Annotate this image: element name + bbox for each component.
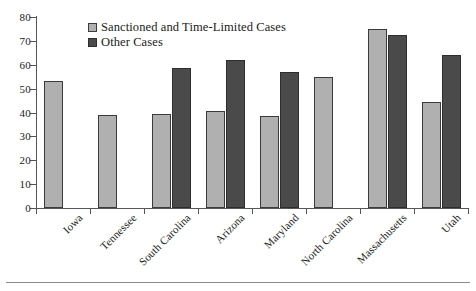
x-axis-label: Massachusetts [355, 212, 409, 266]
y-axis-tick-label: 10 [20, 179, 31, 190]
y-axis-tick-label: 20 [20, 155, 31, 166]
bar-group [36, 17, 90, 208]
x-axis-label: Arizona [213, 212, 246, 245]
bar [206, 111, 225, 208]
legend-swatch-icon [88, 38, 97, 47]
bar [226, 60, 245, 208]
x-axis-label: Tennessee [99, 212, 139, 252]
bar [388, 35, 407, 208]
legend-label: Sanctioned and Time-Limited Cases [101, 20, 286, 35]
y-axis-tick-label: 40 [20, 107, 31, 118]
x-axis-label: North Carolina [299, 212, 355, 268]
legend-item: Other Cases [88, 35, 286, 50]
bar [172, 68, 191, 208]
y-axis-tick-label: 80 [20, 12, 31, 23]
bar [44, 81, 63, 208]
bar [314, 77, 333, 208]
y-axis-tick-label: 60 [20, 59, 31, 70]
bar-group [360, 17, 414, 208]
x-axis-label: South Carolina [137, 212, 193, 268]
bar [422, 102, 441, 208]
x-axis-labels: IowaTennesseeSouth CarolinaArizonaMaryla… [36, 210, 468, 288]
bar [152, 114, 171, 208]
bar [368, 29, 387, 208]
x-axis-label: Utah [440, 212, 463, 235]
bar-group [306, 17, 360, 208]
bar [280, 72, 299, 208]
bottom-divider [6, 282, 470, 283]
legend-label: Other Cases [101, 35, 163, 50]
x-axis-label: Maryland [262, 212, 301, 251]
bar [98, 115, 117, 208]
bar [260, 116, 279, 208]
chart-legend: Sanctioned and Time-Limited CasesOther C… [88, 20, 286, 50]
y-axis-tick-label: 30 [20, 131, 31, 142]
legend-swatch-icon [88, 23, 97, 32]
y-axis-tick-label: 0 [25, 203, 31, 214]
y-axis-tick-label: 50 [20, 83, 31, 94]
legend-item: Sanctioned and Time-Limited Cases [88, 20, 286, 35]
x-axis-label: Iowa [61, 212, 85, 236]
bar-group [414, 17, 468, 208]
bar [442, 55, 461, 208]
y-axis-tick-label: 70 [20, 35, 31, 46]
x-axis-tick [468, 208, 469, 214]
bar-chart: 01020304050607080 IowaTennesseeSouth Car… [0, 0, 476, 291]
